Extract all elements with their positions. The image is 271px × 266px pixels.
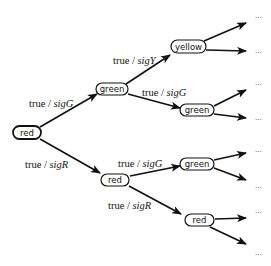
continuation-arrows [204,23,246,244]
state-node-yellow: yellow [171,40,206,53]
state-node-red-lower: red [185,214,214,226]
state-node-green-lower: green [180,158,214,170]
svg-text:green: green [185,105,210,115]
state-node-red-l1: red [101,174,129,186]
svg-text:red: red [108,175,122,185]
svg-text:...: ... [255,207,262,215]
svg-text:...: ... [255,47,262,55]
svg-text:yellow: yellow [175,42,202,52]
edge-label-sigR-root: true / sigR [25,159,69,170]
svg-text:...: ... [255,182,262,190]
svg-text:...: ... [255,146,262,154]
state-diagram: red green red yellow green green red tru… [0,0,271,266]
svg-text:green: green [185,159,210,169]
svg-text:...: ... [255,79,262,87]
edge-label-sigG-root: true / sigG [29,98,74,109]
state-node-green-upper: green [180,104,214,116]
edge-label-sigG-green: true / sigG [142,87,187,98]
edge-label-sigG-red: true / sigG [118,158,163,169]
continuation-ellipses: ... ... ... ... ... ... ... ... [255,12,262,257]
svg-text:green: green [100,84,125,94]
svg-text:...: ... [255,114,262,122]
svg-text:red: red [193,215,207,225]
svg-text:red: red [20,128,34,138]
state-node-root-red: red [13,126,41,139]
svg-text:...: ... [255,12,262,20]
edge-label-sigY: true / sigY [113,55,157,66]
state-node-green-l1: green [96,83,128,95]
edge-label-sigR-red: true / sigR [108,200,152,211]
svg-text:...: ... [255,249,262,257]
